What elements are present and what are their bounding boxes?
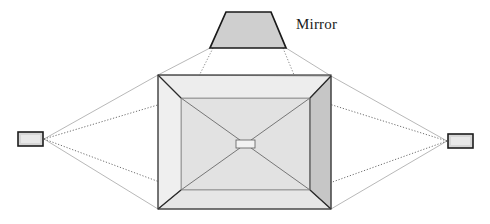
sensor-left-group [18,132,43,146]
box-wall-bottom [158,190,331,209]
box-wall-right [310,76,331,209]
box-wall-top [158,75,331,98]
diagram-canvas [0,0,490,224]
sensor-left-lens [21,135,40,143]
mirror-label: Mirror [296,16,337,33]
sensor-right-lens [451,137,470,145]
center-target-rect [236,140,255,148]
sensor-right-group [448,134,473,148]
box-group [158,75,331,209]
